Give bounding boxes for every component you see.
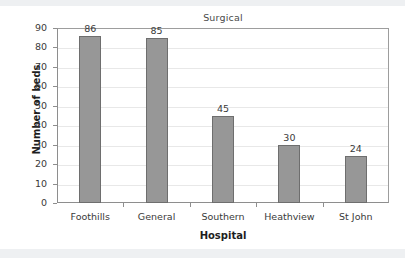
y-axis-tick xyxy=(53,28,57,29)
y-axis-tick-label: 60 xyxy=(21,81,47,91)
x-axis-category-label: General xyxy=(123,212,189,222)
y-axis-tick-label: 70 xyxy=(21,62,47,72)
bar-value-label: 86 xyxy=(70,24,110,34)
bar-value-label: 24 xyxy=(336,144,376,154)
x-axis-tick xyxy=(190,203,191,207)
gridline xyxy=(58,48,388,49)
x-axis-tick xyxy=(123,203,124,207)
y-axis-tick xyxy=(53,203,57,204)
chart-title: Surgical xyxy=(57,12,389,23)
bar-general[interactable] xyxy=(146,38,168,203)
y-axis-tick-label: 30 xyxy=(21,140,47,150)
x-axis-category-label: St John xyxy=(323,212,389,222)
gridline xyxy=(58,68,388,69)
bar-heathview[interactable] xyxy=(278,145,300,203)
bar-foothills[interactable] xyxy=(79,36,101,203)
y-axis-tick xyxy=(53,125,57,126)
x-axis-tick xyxy=(323,203,324,207)
y-axis-tick xyxy=(53,106,57,107)
y-axis-tick-label: 90 xyxy=(21,23,47,33)
y-axis-tick xyxy=(53,67,57,68)
bar-value-label: 45 xyxy=(203,104,243,114)
x-axis-category-label: Heathview xyxy=(256,212,322,222)
bar-st-john[interactable] xyxy=(345,156,367,203)
bar-value-label: 30 xyxy=(269,133,309,143)
x-axis-tick xyxy=(256,203,257,207)
bar-value-label: 85 xyxy=(137,26,177,36)
y-axis-tick-label: 10 xyxy=(21,179,47,189)
y-axis-tick-label: 50 xyxy=(21,101,47,111)
x-axis-category-label: Southern xyxy=(190,212,256,222)
bar-chart-figure: Surgical Number of beds Hospital 0102030… xyxy=(0,0,405,258)
y-axis-tick xyxy=(53,184,57,185)
y-axis-tick-label: 40 xyxy=(21,120,47,130)
y-axis-tick xyxy=(53,86,57,87)
y-axis-tick xyxy=(53,47,57,48)
y-axis-tick-label: 80 xyxy=(21,42,47,52)
x-axis-category-label: Foothills xyxy=(57,212,123,222)
bar-southern[interactable] xyxy=(212,116,234,204)
y-axis-tick-label: 20 xyxy=(21,159,47,169)
y-axis-tick xyxy=(53,145,57,146)
x-axis-title: Hospital xyxy=(57,230,389,241)
y-axis-tick-label: 0 xyxy=(21,198,47,208)
gridline xyxy=(58,87,388,88)
y-axis-tick xyxy=(53,164,57,165)
